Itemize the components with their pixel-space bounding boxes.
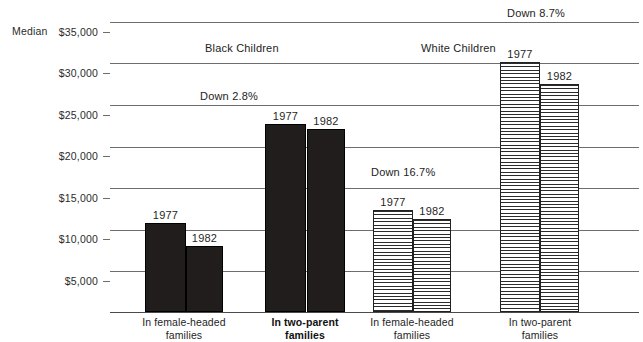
y-tick-mark-15000	[103, 198, 110, 199]
bar-year-label-black-twoparent-1977: 1977	[265, 110, 306, 122]
y-tick-label-25000: $25,000	[20, 108, 98, 122]
annotation-down-16-7: Down 16.7%	[371, 166, 435, 178]
category-caption-line1: In two-parent	[509, 316, 572, 328]
y-tick-mark-25000	[103, 115, 110, 116]
y-tick-label-15000: $15,000	[20, 191, 98, 205]
category-caption-line2: families	[522, 329, 558, 341]
annotation-down-2-8: Down 2.8%	[200, 90, 258, 102]
bar-white-twoparent-1977	[500, 62, 540, 312]
annotation-down-8-7: Down 8.7%	[507, 7, 565, 19]
y-tick-mark-10000	[103, 239, 110, 240]
bar-year-label-black-female-1982: 1982	[186, 232, 223, 244]
bar-black-twoparent-1977	[265, 124, 306, 312]
axis-baseline	[110, 312, 639, 313]
bar-white-female-1982	[413, 219, 451, 312]
y-tick-mark-30000	[103, 73, 110, 74]
bar-white-female-1977	[373, 210, 413, 312]
bar-white-twoparent-1982	[540, 84, 579, 312]
gridline-35000	[110, 22, 639, 23]
bar-year-label-white-female-1982: 1982	[413, 205, 451, 217]
y-tick-mark-5000	[103, 281, 110, 282]
y-tick-label-35000: $35,000	[20, 25, 98, 39]
group-label-white-children: White Children	[421, 42, 496, 54]
bar-year-label-black-twoparent-1982: 1982	[307, 115, 345, 127]
y-tick-label-10000: $10,000	[20, 232, 98, 246]
category-caption-white-female-headed: In female-headed families	[342, 316, 482, 342]
gridline-30000	[110, 63, 639, 64]
bar-year-label-black-female-1977: 1977	[145, 209, 186, 221]
y-tick-label-20000: $20,000	[20, 149, 98, 163]
category-caption-line1: In female-headed	[142, 316, 225, 328]
y-tick-mark-35000	[103, 32, 110, 33]
category-caption-black-female-headed: In female-headed families	[114, 316, 254, 342]
category-caption-line1: In female-headed	[370, 316, 453, 328]
bar-year-label-white-twoparent-1982: 1982	[540, 70, 579, 82]
y-tick-label-30000: $30,000	[20, 66, 98, 80]
bar-year-label-white-female-1977: 1977	[373, 196, 413, 208]
y-tick-label-5000: $5,000	[20, 274, 98, 288]
category-caption-line1: In two-parent	[271, 316, 338, 328]
bar-black-female-1977	[145, 223, 186, 312]
y-tick-mark-20000	[103, 156, 110, 157]
bar-year-label-white-twoparent-1977: 1977	[500, 48, 540, 60]
bar-black-female-1982	[186, 246, 223, 312]
category-caption-line2: families	[285, 329, 325, 341]
bar-black-twoparent-1982	[307, 129, 345, 312]
category-caption-line2: families	[394, 329, 430, 341]
category-caption-white-two-parent: In two-parent families	[470, 316, 610, 342]
category-caption-line2: families	[166, 329, 202, 341]
group-label-black-children: Black Children	[205, 42, 279, 54]
